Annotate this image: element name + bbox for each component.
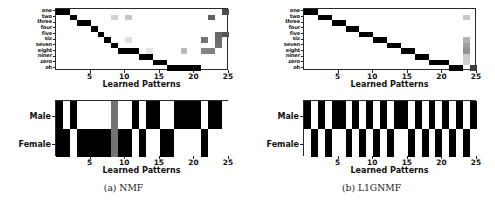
heatmap-cell	[118, 48, 125, 54]
heatmap-cell	[84, 20, 91, 26]
heatmap-cell	[339, 101, 346, 129]
heatmap-cell	[160, 129, 167, 157]
heatmap-cell	[401, 101, 408, 129]
heatmap-cell	[208, 15, 215, 21]
heatmap-cell	[167, 101, 174, 129]
heatmap-cell	[352, 101, 359, 129]
heatmap-cell	[373, 101, 380, 129]
heatmap-cell	[359, 32, 366, 38]
heatmap-cell	[318, 101, 325, 129]
heatmap-cell	[456, 129, 463, 157]
heatmap-cell	[422, 129, 429, 157]
heatmap-cell	[208, 48, 215, 54]
heatmap-cell	[422, 54, 429, 60]
heatmap-cell	[181, 48, 188, 54]
heatmap-cell	[401, 48, 408, 54]
heatmap-cell	[63, 101, 70, 129]
heatmap-cell	[304, 101, 311, 129]
heatmap-cell	[146, 129, 153, 157]
heatmap-cell	[449, 101, 456, 129]
heatmap-cell	[146, 48, 153, 54]
heatmap-cell	[84, 129, 91, 157]
heatmap-cell	[394, 101, 401, 129]
heatmap-cell	[463, 60, 470, 66]
heatmap-cell	[208, 101, 215, 129]
heatmap-cell	[63, 129, 70, 157]
heatmap-cell	[463, 129, 470, 157]
heatmap-cell	[463, 101, 470, 129]
heatmap-cell	[408, 129, 415, 157]
heatmap-cell	[401, 129, 408, 157]
heatmap-cell	[215, 129, 222, 157]
heatmap-cell	[56, 9, 63, 15]
heatmap-cell	[373, 37, 380, 43]
heatmap-cell	[84, 101, 91, 129]
heatmap-cell	[111, 129, 118, 157]
heatmap-cell	[91, 26, 98, 32]
heatmap-cell	[139, 129, 146, 157]
heatmap-cell	[125, 48, 132, 54]
heatmap-cell	[415, 129, 422, 157]
heatmap-cell	[70, 15, 77, 21]
heatmap-cell	[63, 9, 70, 15]
heatmap-cell	[181, 129, 188, 157]
heatmap-cell	[415, 54, 422, 60]
heatmap-cell	[118, 129, 125, 157]
heatmap-cell	[352, 129, 359, 157]
panel-nmf: onetwothreefourfivesixseveneightninerzer…	[0, 0, 247, 207]
heatmap-cell	[408, 48, 415, 54]
heatmap-cell	[77, 20, 84, 26]
heatmap-cell	[98, 32, 105, 38]
heatmap-cell	[201, 48, 208, 54]
heatmap-cell	[70, 101, 77, 129]
heatmap-cell	[208, 129, 215, 157]
heatmap-cell	[146, 101, 153, 129]
heatmap-cell	[415, 101, 422, 129]
heatmap-cell	[304, 9, 311, 15]
heatmap-cell	[70, 129, 77, 157]
heatmap-cell	[56, 129, 63, 157]
heatmap-cell	[104, 101, 111, 129]
heatmap-cell	[435, 129, 442, 157]
heatmap-cell	[125, 37, 132, 43]
gender-y-tick-label: Male	[277, 112, 299, 121]
gender-y-tick-label: Male	[29, 112, 51, 121]
figure-root: onetwothreefourfivesixseveneightninerzer…	[0, 0, 495, 207]
heatmap-cell	[339, 20, 346, 26]
heatmap-cell	[125, 101, 132, 129]
heatmap-cell	[346, 129, 353, 157]
heatmap-cell	[380, 101, 387, 129]
heatmap-cell	[311, 129, 318, 157]
heatmap-cell	[366, 101, 373, 129]
heatmap-cell	[98, 129, 105, 157]
heatmap-cell	[332, 101, 339, 129]
heatmap-cell	[222, 32, 229, 38]
digit-x-axis-title-b: Learned Patterns	[303, 80, 476, 89]
heatmap-cell	[139, 101, 146, 129]
heatmap-cell	[111, 101, 118, 129]
heatmap-cell	[201, 129, 208, 157]
digit-y-tick-label: oh	[45, 65, 55, 70]
digit-x-axis-title-a: Learned Patterns	[55, 80, 228, 89]
heatmap-cell	[435, 101, 442, 129]
heatmap-cell	[125, 15, 132, 21]
gender-y-axis-a: MaleFemale	[6, 100, 55, 156]
heatmap-cell	[146, 54, 153, 60]
gender-heatmap-grid-b	[303, 100, 476, 156]
heatmap-cell	[463, 15, 470, 21]
heatmap-cell	[442, 60, 449, 66]
digit-y-axis-a: onetwothreefourfivesixseveneightninerzer…	[22, 8, 55, 70]
heatmap-cell	[167, 129, 174, 157]
heatmap-cell	[153, 101, 160, 129]
heatmap-cell	[215, 101, 222, 129]
heatmap-cell	[222, 101, 229, 129]
heatmap-cell	[160, 60, 167, 66]
heatmap-cell	[346, 26, 353, 32]
heatmap-cell	[429, 129, 436, 157]
heatmap-cell	[118, 101, 125, 129]
heatmap-cell	[56, 101, 63, 129]
heatmap-cell	[77, 101, 84, 129]
heatmap-cell	[470, 129, 477, 157]
heatmap-cell	[201, 101, 208, 129]
heatmap-cell	[366, 129, 373, 157]
